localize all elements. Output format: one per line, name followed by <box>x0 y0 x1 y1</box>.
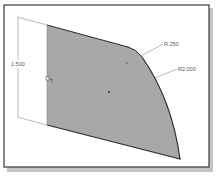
vertex-point[interactable] <box>179 158 181 160</box>
endpoint-marker-icon[interactable] <box>46 77 49 80</box>
sketch-canvas: 1.500 R.250 R2.000 <box>0 0 218 178</box>
dim-small-radius-text[interactable]: R.250 <box>164 41 179 47</box>
vertex-point[interactable] <box>127 46 128 47</box>
dim-height-text[interactable]: 1.500 <box>11 61 25 67</box>
center-point-icon[interactable] <box>108 91 110 93</box>
dim-large-radius-text[interactable]: R2.000 <box>178 66 196 72</box>
arc-center-point-icon[interactable] <box>126 62 128 64</box>
